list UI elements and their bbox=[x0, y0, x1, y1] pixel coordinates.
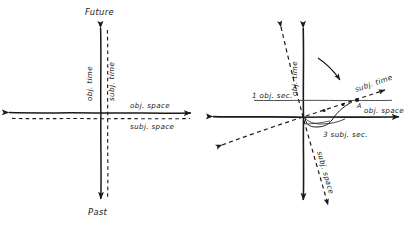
left-past-label: Past bbox=[88, 207, 108, 217]
three-subj-sec-brace bbox=[305, 102, 352, 127]
tick-dot-1 bbox=[323, 109, 326, 112]
three-subj-sec-label: 3 subj. sec. bbox=[323, 130, 368, 139]
rotation-arrow bbox=[318, 58, 340, 80]
diagram-figure: Future Past obj. time subj. time obj. sp… bbox=[0, 0, 410, 226]
left-obj-space-axis bbox=[9, 113, 191, 114]
one-obj-sec-label: 1 obj. sec. bbox=[252, 91, 293, 100]
left-subj-space-label: subj. space bbox=[130, 122, 175, 131]
right-obj-space-axis bbox=[213, 117, 399, 118]
right-subj-space-label: subj. space bbox=[315, 150, 336, 195]
diagram-canvas: Future Past obj. time subj. time obj. sp… bbox=[0, 0, 410, 226]
left-panel: Future Past obj. time subj. time obj. sp… bbox=[9, 7, 191, 217]
right-obj-space-label: obj. space bbox=[364, 106, 404, 115]
point-a-label: A bbox=[356, 102, 362, 110]
right-subj-time-label: subj. time bbox=[354, 73, 394, 94]
left-obj-space-label: obj. space bbox=[130, 101, 170, 110]
left-obj-time-label: obj. time bbox=[85, 66, 94, 101]
tick-dot-2 bbox=[342, 103, 345, 106]
right-subj-space-axis bbox=[281, 27, 328, 205]
left-future-label: Future bbox=[85, 7, 114, 17]
left-subj-time-label: subj. time bbox=[107, 62, 116, 101]
right-panel: obj. time obj. space subj. time subj. sp… bbox=[213, 27, 404, 205]
